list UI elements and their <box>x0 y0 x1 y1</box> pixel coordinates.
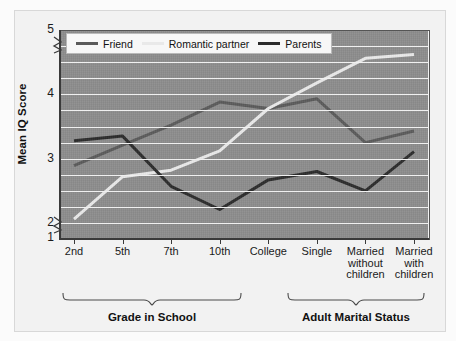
x-tick-label-2nd: 2nd <box>65 246 83 258</box>
legend-item-friend: Friend <box>76 38 133 50</box>
gridline <box>60 223 428 224</box>
x-tick <box>414 238 415 244</box>
gridline <box>60 191 428 192</box>
legend-item-parents: Parents <box>258 38 321 50</box>
x-tick <box>220 238 221 244</box>
x-tick <box>123 238 124 244</box>
x-tick-label-line: Married <box>395 246 434 258</box>
gridline <box>60 127 428 128</box>
x-tick-label-line: College <box>250 246 287 258</box>
gridline <box>60 159 428 160</box>
gridline <box>60 78 428 79</box>
x-tick <box>74 238 75 244</box>
legend-swatch-parents <box>258 42 280 45</box>
brace-grade-in-school <box>60 292 245 306</box>
legend-swatch-friend <box>76 42 98 45</box>
y-tick-label-1: 1 <box>12 230 54 244</box>
gridline <box>60 175 428 176</box>
x-tick-label-7th: 7th <box>163 246 178 258</box>
gridline <box>60 143 428 144</box>
x-tick <box>317 238 318 244</box>
x-tick-label-10th: 10th <box>209 246 230 258</box>
x-tick-label-married-without-children: Marriedwithoutchildren <box>346 246 385 281</box>
x-tick-label-married-with-children: Marriedwithchildren <box>395 246 434 281</box>
x-tick-label-line: 10th <box>209 246 230 258</box>
x-tick <box>268 238 269 244</box>
x-tick-label-line: 7th <box>163 246 178 258</box>
y-axis-break-upper-icon <box>50 36 66 54</box>
x-tick <box>365 238 366 244</box>
x-tick-label-line: 2nd <box>65 246 83 258</box>
x-tick-label-line: children <box>395 269 434 281</box>
x-tick-label-line: children <box>346 269 385 281</box>
legend-swatch-romantic-partner <box>142 42 164 45</box>
legend-label-parents: Parents <box>285 38 321 50</box>
legend-label-friend: Friend <box>103 38 133 50</box>
legend-label-romantic-partner: Romantic partner <box>169 38 250 50</box>
plot-area <box>60 30 428 238</box>
x-tick-label-line: 5th <box>115 246 130 258</box>
y-tick-label-2: 2 <box>12 215 54 229</box>
gridline <box>60 94 428 95</box>
x-tick-label-line: Married <box>346 246 385 258</box>
x-tick-label-5th: 5th <box>115 246 130 258</box>
gridline <box>60 207 428 208</box>
gridline <box>60 62 428 63</box>
group-label-grade-in-school: Grade in School <box>108 311 196 323</box>
x-tick <box>171 238 172 244</box>
y-axis-break-lower-icon <box>50 216 66 234</box>
x-tick-label-single: Single <box>302 246 333 258</box>
brace-adult-marital-status <box>285 292 428 306</box>
x-tick-label-college: College <box>250 246 287 258</box>
legend-item-romantic-partner: Romantic partner <box>142 38 250 50</box>
group-label-adult-marital-status: Adult Marital Status <box>302 311 410 323</box>
x-tick-label-line: Single <box>302 246 333 258</box>
chart-legend: Friend Romantic partner Parents <box>66 33 332 54</box>
chart-figure: Friend Romantic partner Parents 54321 Me… <box>0 0 456 341</box>
x-axis-line <box>59 238 429 240</box>
y-axis-line <box>59 30 61 239</box>
y-axis-title: Mean IQ Score <box>16 64 28 184</box>
gridline <box>60 110 428 111</box>
y-tick-label-5: 5 <box>12 22 54 36</box>
